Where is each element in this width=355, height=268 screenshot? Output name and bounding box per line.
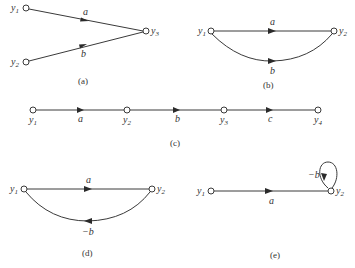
arrow-icon <box>268 28 276 34</box>
gain-a: a <box>78 113 83 124</box>
node-label-y1: y1 <box>10 2 19 15</box>
gain-neg-b: −b <box>308 169 320 180</box>
panel-c: y1 y2 y3 y4 a b c (c) <box>28 107 322 148</box>
arrow-icon <box>84 218 92 224</box>
node-y2 <box>149 186 155 192</box>
gain-a: a <box>269 195 274 206</box>
node-y1 <box>208 188 214 194</box>
panel-a: y1 y2 y3 a b (a) <box>10 2 159 86</box>
signal-flow-graphs: y1 y2 y3 a b (a) y1 y2 a b (b) y1 y2 y3 … <box>0 0 355 268</box>
panel-b: y1 y2 a b (b) <box>197 16 347 90</box>
node-y2 <box>331 28 337 34</box>
node-y2 <box>328 188 334 194</box>
node-y1 <box>21 186 27 192</box>
caption-e: (e) <box>270 250 280 260</box>
caption-c: (c) <box>170 138 180 148</box>
node-label-y2: y2 <box>10 56 19 69</box>
node-y1 <box>30 107 36 113</box>
node-label-y1: y1 <box>196 185 205 198</box>
node-y3 <box>143 28 149 34</box>
gain-b: b <box>270 65 275 76</box>
node-label-y1: y1 <box>197 25 206 38</box>
caption-b: (b) <box>263 80 274 90</box>
node-label-y2: y2 <box>156 183 165 196</box>
arrow-icon <box>84 186 92 192</box>
edge-y2-y1-neg-b <box>26 192 150 221</box>
gain-a: a <box>86 174 91 185</box>
node-y4 <box>315 107 321 113</box>
node-y2 <box>23 59 29 65</box>
panel-d: y1 y2 a −b (d) <box>9 174 165 258</box>
node-label-y3: y3 <box>150 25 159 38</box>
edge-y1-y2-b <box>212 34 332 61</box>
node-label-y1: y1 <box>28 114 37 127</box>
edge-y2-y3 <box>29 32 143 61</box>
node-label-y2: y2 <box>335 185 344 198</box>
node-y1 <box>23 5 29 11</box>
gain-a: a <box>83 6 88 17</box>
node-label-y1: y1 <box>9 183 18 196</box>
arrow-icon <box>80 18 89 22</box>
arrow-icon <box>265 188 273 194</box>
caption-a: (a) <box>78 76 88 86</box>
node-label-y2: y2 <box>122 114 131 127</box>
gain-neg-b: −b <box>82 226 94 237</box>
node-label-y4: y4 <box>313 114 322 127</box>
panel-e: y1 y2 a −b (e) <box>196 162 344 260</box>
node-y2 <box>124 107 130 113</box>
node-label-y3: y3 <box>219 114 228 127</box>
caption-d: (d) <box>82 248 93 258</box>
node-label-y2: y2 <box>338 25 347 38</box>
node-y3 <box>221 107 227 113</box>
gain-c: c <box>268 113 273 124</box>
arrow-icon <box>268 58 276 64</box>
gain-b: b <box>81 48 86 59</box>
node-y1 <box>208 28 214 34</box>
gain-a: a <box>270 16 275 27</box>
gain-b: b <box>175 113 180 124</box>
